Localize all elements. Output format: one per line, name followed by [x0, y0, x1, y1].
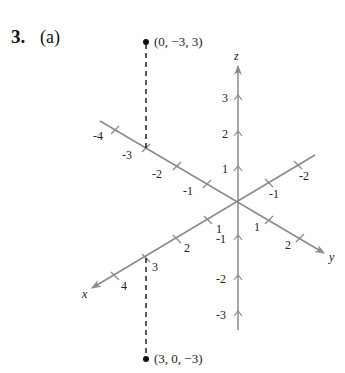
- z-tick-2: 2: [222, 127, 228, 141]
- z-tick-1: 1: [222, 162, 228, 176]
- point-0-neg3-3-label: (0, −3, 3): [154, 34, 203, 49]
- y-tick-neg3: -3: [122, 148, 132, 162]
- y-tick-1: 1: [254, 220, 260, 234]
- axes-diagram: z 3 2 1 -1 -2 -3 y -4 -3 -2 -1 1 2: [0, 0, 345, 373]
- y-tick-neg1: -1: [183, 184, 193, 198]
- y-axis: [100, 121, 324, 253]
- y-tick-neg2: -2: [152, 167, 162, 181]
- x-tick-neg1: -1: [269, 187, 279, 201]
- z-axis: [234, 66, 242, 330]
- 3d-coordinate-figure: 3. (a) z 3 2 1 -1 -2 -3: [0, 0, 345, 373]
- z-tick-neg3: -3: [216, 308, 226, 322]
- x-tick-neg2: -2: [299, 169, 309, 183]
- point-3-0-neg3-label: (3, 0, −3): [154, 351, 203, 366]
- point-0-neg3-3: [143, 39, 149, 45]
- x-axis: [92, 155, 315, 288]
- z-tick-3: 3: [222, 91, 228, 105]
- x-tick-3: 3: [152, 260, 158, 274]
- z-axis-label: z: [233, 49, 239, 63]
- x-tick-2: 2: [184, 241, 190, 255]
- x-tick-1: 1: [216, 222, 222, 236]
- x-tick-4: 4: [121, 279, 127, 293]
- z-tick-neg2: -2: [216, 272, 226, 286]
- point-3-0-neg3: [143, 356, 149, 362]
- x-axis-label: x: [81, 287, 88, 301]
- y-axis-label: y: [328, 250, 335, 264]
- part-label: (a): [40, 27, 60, 48]
- problem-number: 3.: [11, 26, 25, 48]
- y-tick-2: 2: [285, 238, 291, 252]
- y-tick-neg4: -4: [93, 129, 103, 143]
